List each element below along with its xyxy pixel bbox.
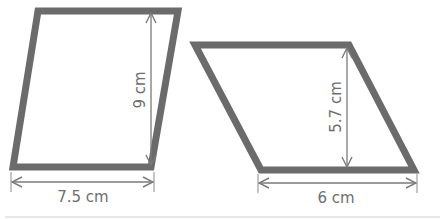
base-label: 7.5 cm <box>57 188 108 206</box>
parallelogram-right: 5.7 cm 6 cm <box>195 45 417 207</box>
diagram-canvas: 9 cm 7.5 cm 5.7 cm 6 cm <box>0 0 443 219</box>
base-label: 6 cm <box>317 189 354 207</box>
height-label: 5.7 cm <box>327 81 345 132</box>
parallelogram-right-outline <box>195 45 414 170</box>
height-label: 9 cm <box>131 71 149 108</box>
parallelogram-left-outline <box>13 11 178 167</box>
parallelogram-left: 9 cm 7.5 cm <box>11 11 178 206</box>
